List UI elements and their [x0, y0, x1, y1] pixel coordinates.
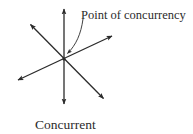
diagonal-line-nw-se [31, 25, 104, 99]
point-of-concurrency-label: Point of concurrency [81, 9, 186, 22]
point-of-concurrency-dot [62, 57, 65, 60]
diagram-caption: Concurrent [35, 118, 96, 132]
callout-pointer-arrow [68, 19, 84, 54]
concurrent-lines-diagram: Point of concurrency Concurrent [0, 0, 193, 134]
